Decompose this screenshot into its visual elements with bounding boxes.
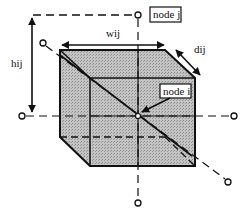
height-label: hij [11, 57, 23, 69]
cube-diagram: node j node i wij hij dij [0, 0, 244, 221]
node-right-circle [231, 113, 237, 119]
node-i-label: node i [163, 85, 190, 97]
node-left-circle [19, 113, 25, 119]
node-back-circle [40, 40, 46, 46]
cube-body [60, 50, 195, 166]
node-j-label: node j [153, 8, 180, 20]
depth-label: dij [194, 43, 206, 55]
node-bottom-circle [135, 200, 141, 206]
node-j-circle [135, 12, 141, 18]
width-label: wij [106, 27, 120, 39]
node-i-circle [136, 114, 141, 119]
node-front-circle [225, 179, 231, 185]
